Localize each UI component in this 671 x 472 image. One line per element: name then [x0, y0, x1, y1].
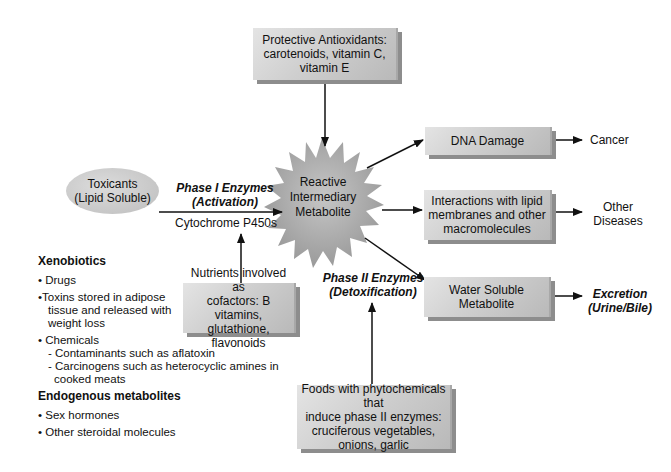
- foods-line-1: Foods with phytochemicals that: [297, 382, 450, 410]
- antioxidants-line-1: Protective Antioxidants:: [262, 33, 387, 47]
- water-soluble-box: Water Soluble Metabolite: [424, 277, 551, 317]
- xenobiotics-heading: Xenobiotics: [38, 255, 279, 268]
- other-diseases-line-1: Other: [588, 200, 648, 214]
- reactive-metabolite-label: Reactive Intermediary Metabolite: [282, 175, 364, 220]
- toxicants-line-2: (Lipid Soluble): [74, 191, 151, 205]
- phase1-subtitle: (Activation): [170, 195, 280, 209]
- excretion-line-1: Excretion: [580, 287, 660, 301]
- toxicants-line-1: Toxicants: [74, 177, 151, 191]
- foods-line-4: onions, garlic: [297, 438, 450, 452]
- toxicant-sources-list: Xenobiotics • Drugs •Toxins stored in ad…: [38, 255, 279, 443]
- xenobiotic-chemicals: • Chemicals: [38, 334, 279, 347]
- interactions-line-1: Interactions with lipid: [428, 194, 545, 208]
- interactions-line-3: macromolecules: [428, 222, 545, 236]
- foods-line-3: cruciferous vegetables,: [297, 424, 450, 438]
- metabolite-line-1: Reactive: [282, 175, 364, 190]
- toxicants-oval: Toxicants (Lipid Soluble): [66, 168, 159, 214]
- arrow-metabolite-to-dna: [367, 140, 423, 168]
- foods-line-2: induce phase II enzymes:: [297, 410, 450, 424]
- chemicals-carcinogens-line-1: - Carcinogens such as heterocyclic amine…: [38, 360, 279, 373]
- endogenous-steroidal: • Other steroidal molecules: [38, 426, 279, 439]
- water-soluble-line-2: Metabolite: [449, 297, 524, 311]
- chemicals-carcinogens-line-2: cooked meats: [38, 373, 279, 386]
- chemicals-contaminants: - Contaminants such as aflatoxin: [38, 347, 279, 360]
- interactions-box: Interactions with lipid membranes and ot…: [424, 190, 552, 240]
- dna-damage-label: DNA Damage: [451, 134, 524, 148]
- dna-damage-box: DNA Damage: [425, 127, 552, 155]
- phase2-title: Phase II Enzymes: [318, 271, 428, 285]
- other-diseases-line-2: Diseases: [588, 214, 648, 228]
- xenobiotic-toxins-line-3: weight loss: [38, 317, 279, 330]
- other-diseases-label: Other Diseases: [588, 200, 648, 228]
- interactions-line-2: membranes and other: [428, 208, 545, 222]
- endogenous-heading: Endogenous metabolites: [38, 390, 279, 403]
- xenobiotic-toxins-line-1: •Toxins stored in adipose: [38, 291, 279, 304]
- cancer-label: Cancer: [590, 133, 629, 147]
- antioxidants-line-3: vitamin E: [262, 61, 387, 75]
- phase2-subtitle: (Detoxification): [318, 285, 428, 299]
- phase1-enzyme: Cytochrome P450s: [166, 216, 286, 230]
- metabolite-line-3: Metabolite: [282, 205, 364, 220]
- antioxidants-box: Protective Antioxidants: carotenoids, vi…: [253, 28, 398, 80]
- metabolite-line-2: Intermediary: [282, 190, 364, 205]
- endogenous-sex-hormones: • Sex hormones: [38, 409, 279, 422]
- excretion-line-2: (Urine/Bile): [580, 301, 660, 315]
- water-soluble-line-1: Water Soluble: [449, 283, 524, 297]
- excretion-label: Excretion (Urine/Bile): [580, 287, 660, 315]
- antioxidants-line-2: carotenoids, vitamin C,: [262, 47, 387, 61]
- xenobiotic-toxins-line-2: tissue and released with: [38, 304, 279, 317]
- phase1-title: Phase I Enzymes: [170, 181, 280, 195]
- foods-box: Foods with phytochemicals that induce ph…: [297, 385, 452, 449]
- xenobiotic-drugs: • Drugs: [38, 274, 279, 287]
